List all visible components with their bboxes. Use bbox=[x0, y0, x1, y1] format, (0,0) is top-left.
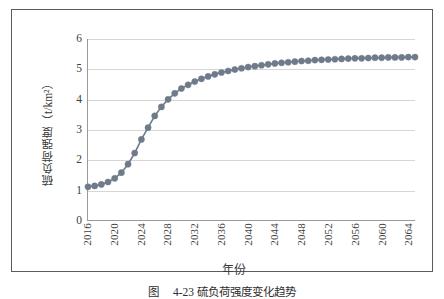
y-axis-tick-labels: 0123456 bbox=[51, 39, 82, 221]
data-point bbox=[265, 61, 271, 67]
data-point bbox=[245, 64, 251, 70]
data-point bbox=[285, 59, 291, 65]
x-tick-label: 2016 bbox=[81, 223, 93, 246]
data-point bbox=[105, 179, 111, 185]
data-point bbox=[252, 63, 258, 69]
x-tick-label: 2048 bbox=[295, 223, 307, 246]
data-point bbox=[92, 183, 98, 189]
data-point bbox=[212, 71, 218, 77]
series-line-chart bbox=[88, 39, 415, 220]
data-point bbox=[258, 62, 264, 68]
caption-number: 4-23 bbox=[173, 286, 194, 298]
series-markers bbox=[85, 54, 418, 190]
data-point bbox=[399, 54, 405, 60]
data-point bbox=[165, 96, 171, 102]
data-point bbox=[145, 125, 151, 131]
x-tick-label: 2060 bbox=[376, 223, 388, 246]
y-tick-label: 3 bbox=[54, 124, 82, 136]
data-point bbox=[379, 55, 385, 61]
data-point bbox=[158, 104, 164, 110]
x-axis-tick-labels: 2016202020242028203220362040204420482052… bbox=[87, 223, 415, 263]
x-tick-label: 2044 bbox=[268, 223, 280, 246]
caption-text: 硫负荷强度变化趋势 bbox=[197, 286, 296, 298]
data-point bbox=[118, 170, 124, 176]
data-point bbox=[372, 55, 378, 61]
data-point bbox=[405, 54, 411, 60]
plot-area bbox=[87, 39, 415, 221]
x-tick-label: 2064 bbox=[402, 223, 414, 246]
data-point bbox=[125, 161, 131, 167]
data-point bbox=[205, 73, 211, 79]
data-point bbox=[172, 90, 178, 96]
data-point bbox=[385, 54, 391, 60]
data-point bbox=[392, 54, 398, 60]
data-point bbox=[298, 58, 304, 64]
data-point bbox=[232, 66, 238, 72]
x-tick-label: 2020 bbox=[108, 223, 120, 246]
data-point bbox=[318, 57, 324, 63]
data-point bbox=[238, 65, 244, 71]
x-axis-title: 年份 bbox=[12, 260, 444, 278]
data-point bbox=[345, 56, 351, 62]
y-tick-label: 0 bbox=[54, 215, 82, 227]
data-point bbox=[352, 55, 358, 61]
data-point bbox=[412, 54, 418, 60]
x-tick-label: 2024 bbox=[135, 223, 147, 246]
x-tick-label: 2056 bbox=[349, 223, 361, 246]
data-point bbox=[365, 55, 371, 61]
data-point bbox=[339, 56, 345, 62]
data-point bbox=[178, 85, 184, 91]
data-point bbox=[138, 136, 144, 142]
data-point bbox=[312, 57, 318, 63]
y-tick-label: 1 bbox=[54, 185, 82, 197]
data-point bbox=[272, 60, 278, 66]
data-point bbox=[98, 181, 104, 187]
data-point bbox=[112, 175, 118, 181]
x-tick-label: 2040 bbox=[242, 223, 254, 246]
data-point bbox=[132, 150, 138, 156]
series-line-path bbox=[88, 57, 415, 187]
y-tick-label: 2 bbox=[54, 154, 82, 166]
data-point bbox=[225, 68, 231, 74]
data-point bbox=[305, 58, 311, 64]
chart-frame: 硫负荷强度（t/km²） 0123456 2016202020242028203… bbox=[11, 9, 433, 272]
data-point bbox=[292, 59, 298, 65]
caption-label: 图 bbox=[148, 286, 159, 298]
x-tick-label: 2032 bbox=[188, 223, 200, 246]
data-point bbox=[359, 55, 365, 61]
data-point bbox=[278, 60, 284, 66]
y-tick-label: 4 bbox=[54, 94, 82, 106]
y-tick-label: 5 bbox=[54, 63, 82, 75]
data-point bbox=[218, 69, 224, 75]
x-tick-label: 2028 bbox=[161, 223, 173, 246]
data-point bbox=[192, 78, 198, 84]
data-point bbox=[152, 113, 158, 119]
data-point bbox=[325, 56, 331, 62]
data-point bbox=[332, 56, 338, 62]
x-tick-label: 2036 bbox=[215, 223, 227, 246]
data-point bbox=[198, 76, 204, 82]
y-tick-label: 6 bbox=[54, 33, 82, 45]
data-point bbox=[185, 82, 191, 88]
x-tick-label: 2052 bbox=[322, 223, 334, 246]
data-point bbox=[85, 184, 91, 190]
figure-caption: 图4-23 硫负荷强度变化趋势 bbox=[0, 283, 444, 299]
